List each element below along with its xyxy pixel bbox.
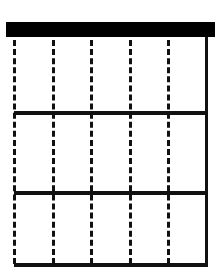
row-divider-line (14, 191, 207, 195)
right-border-line (205, 37, 208, 267)
dashed-column-line (13, 40, 16, 264)
dashed-column-line (52, 40, 55, 264)
row-divider-line (14, 111, 207, 115)
header-bar (6, 22, 215, 37)
dashed-column-line (129, 40, 132, 264)
row-divider-line (14, 263, 207, 267)
dashed-column-line (167, 40, 170, 264)
dashed-column-line (90, 40, 93, 264)
